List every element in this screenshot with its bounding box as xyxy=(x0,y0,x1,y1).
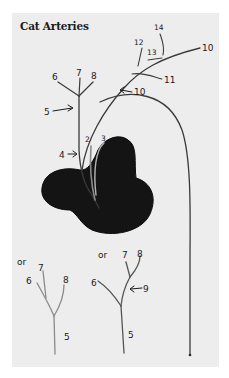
alt-right-label-5: 5 xyxy=(128,330,134,340)
alt-right-label-or: or xyxy=(98,250,108,260)
label-6: 6 xyxy=(52,72,58,82)
label-4: 4 xyxy=(59,150,65,160)
alt-left-label-5: 5 xyxy=(64,332,70,342)
arrow-9 xyxy=(131,288,142,289)
artery-branch-7 xyxy=(79,78,80,96)
label-10-end: 10 xyxy=(202,43,214,53)
label-13: 13 xyxy=(147,48,157,57)
label-3: 3 xyxy=(101,134,106,143)
alt-left-label-8: 8 xyxy=(63,275,69,285)
alt-right-label-7: 7 xyxy=(122,250,128,260)
alt-left-label-6: 6 xyxy=(26,276,32,286)
alt-right-branch-6 xyxy=(98,281,121,306)
label-8: 8 xyxy=(91,71,97,81)
label-10-arrow: 10 xyxy=(134,87,146,97)
alt-right-branch-7 xyxy=(126,262,130,277)
alt-right-label-6: 6 xyxy=(91,278,97,288)
artery-branch-6 xyxy=(58,82,79,96)
alt-right-branch-8 xyxy=(130,256,140,277)
alt-right-label-9: 9 xyxy=(143,284,149,294)
label-14: 14 xyxy=(154,23,164,32)
alt-right-branch-9 xyxy=(121,277,130,306)
label-11: 11 xyxy=(164,75,175,85)
label-12: 12 xyxy=(134,38,144,47)
artery-branch-13 xyxy=(148,58,162,60)
alt-left-label-or: or xyxy=(17,257,27,267)
artery-branch-8 xyxy=(79,82,93,96)
alt-right-trunk-5 xyxy=(121,306,124,353)
descending-aorta-end xyxy=(189,354,192,357)
alt-right-labels: or 7 8 6 9 5 xyxy=(91,249,149,340)
alt-left-trunk-5 xyxy=(54,316,55,354)
alt-diagram-left xyxy=(37,271,64,354)
alt-right-label-8: 8 xyxy=(137,249,143,259)
label-5: 5 xyxy=(44,107,50,117)
alt-right-arrow xyxy=(130,286,142,292)
alt-left-branch-8 xyxy=(54,285,64,316)
label-2: 2 xyxy=(85,135,90,144)
artery-diagram: 6 7 8 5 10 10 11 12 13 14 4 2 3 or 7 6 8… xyxy=(0,0,229,378)
artery-branch-14 xyxy=(160,34,164,55)
alt-left-label-7: 7 xyxy=(38,263,44,273)
artery-branch-12 xyxy=(138,48,142,66)
label-7: 7 xyxy=(76,68,82,78)
